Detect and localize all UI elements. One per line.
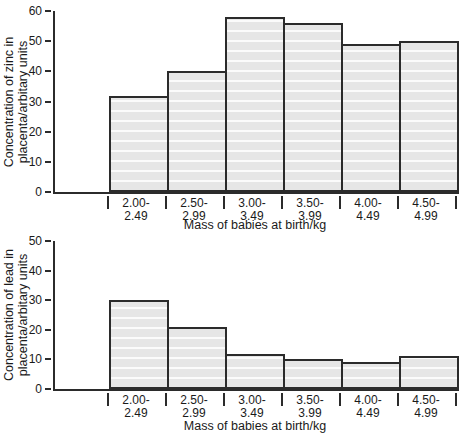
bar-3.00-3.49 (225, 17, 285, 192)
y-tick-50: 50 (28, 234, 51, 248)
y-tick-label-30: 30 (28, 95, 42, 109)
y-tick-mark (45, 70, 51, 72)
y-tick-mark (45, 329, 51, 331)
y-tick-0: 0 (28, 382, 51, 396)
x-label-2.00-2.49: 2.00- 2.49 (107, 394, 165, 420)
y-tick-30: 30 (28, 95, 51, 109)
y-tick-20: 20 (28, 323, 51, 337)
lead-y-axis: 01020304050 (0, 241, 51, 389)
bar-4.50-4.99 (399, 41, 459, 192)
lead-plot-area (53, 241, 459, 391)
lead-x-axis-title: Mass of babies at birth/kg (53, 419, 457, 433)
bar-4.00-4.49 (341, 44, 401, 192)
y-tick-60: 60 (28, 4, 51, 18)
bar-2.50-2.99 (167, 71, 227, 192)
y-tick-label-20: 20 (28, 323, 42, 337)
y-tick-40: 40 (28, 64, 51, 78)
bar-3.00-3.49 (225, 354, 285, 390)
y-tick-50: 50 (28, 34, 51, 48)
x-label-4.50-4.99: 4.50- 4.99 (397, 394, 455, 420)
x-label-4.00-4.49: 4.00- 4.49 (339, 394, 397, 420)
bar-3.50-3.99 (283, 23, 343, 192)
y-tick-10: 10 (28, 155, 51, 169)
y-tick-mark (45, 358, 51, 360)
x-tick-mark (455, 393, 457, 406)
y-tick-label-40: 40 (28, 64, 42, 78)
y-tick-label-30: 30 (28, 293, 42, 307)
y-tick-label-0: 0 (28, 185, 42, 199)
x-label-3.00-3.49: 3.00- 3.49 (223, 394, 281, 420)
bar-2.00-2.49 (109, 300, 169, 389)
y-tick-label-40: 40 (28, 264, 42, 278)
bar-3.50-3.99 (283, 359, 343, 389)
y-tick-label-20: 20 (28, 125, 42, 139)
y-tick-label-10: 10 (28, 155, 42, 169)
bar-4.00-4.49 (341, 362, 401, 389)
y-tick-mark (45, 10, 51, 12)
x-tick-mark (455, 196, 457, 209)
bar-2.00-2.49 (109, 96, 169, 193)
x-label-3.50-3.99: 3.50- 3.99 (281, 394, 339, 420)
y-tick-mark (45, 40, 51, 42)
bar-4.50-4.99 (399, 356, 459, 389)
x-label-2.50-2.99: 2.50- 2.99 (165, 394, 223, 420)
zinc-y-axis: 0102030405060 (0, 11, 51, 192)
lead-concentration-chart: Concentration of lead in placenta/arbita… (0, 233, 461, 445)
y-tick-label-50: 50 (28, 34, 42, 48)
y-tick-mark (45, 240, 51, 242)
y-tick-20: 20 (28, 125, 51, 139)
y-tick-10: 10 (28, 352, 51, 366)
y-tick-mark (45, 388, 51, 390)
y-tick-30: 30 (28, 293, 51, 307)
y-tick-label-60: 60 (28, 4, 42, 18)
y-tick-mark (45, 161, 51, 163)
y-tick-mark (45, 101, 51, 103)
y-tick-0: 0 (28, 185, 51, 199)
y-tick-label-0: 0 (28, 382, 42, 396)
y-tick-mark (45, 131, 51, 133)
y-tick-label-50: 50 (28, 234, 42, 248)
zinc-x-axis-title: Mass of babies at birth/kg (53, 218, 457, 232)
y-tick-label-10: 10 (28, 352, 42, 366)
y-tick-mark (45, 299, 51, 301)
bar-2.50-2.99 (167, 327, 227, 389)
zinc-plot-area (53, 11, 459, 194)
zinc-concentration-chart: Concentration of zinc in placenta/arbita… (0, 0, 461, 233)
y-tick-mark (45, 191, 51, 193)
y-tick-mark (45, 270, 51, 272)
y-tick-40: 40 (28, 264, 51, 278)
